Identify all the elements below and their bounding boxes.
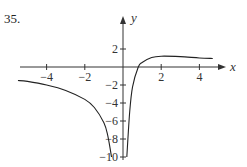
y-tick-label: −10 xyxy=(99,150,118,164)
y-ticks: 2−2−4−6−8−10 xyxy=(99,42,126,164)
y-tick-label: 2 xyxy=(112,42,118,56)
y-axis-label: y xyxy=(129,10,137,25)
function-graph: −4−224 2−2−4−6−8−10 x y xyxy=(0,0,247,167)
x-tick-label: 4 xyxy=(196,70,202,84)
y-tick-label: −4 xyxy=(105,96,118,110)
y-axis xyxy=(120,16,126,160)
x-axis-label: x xyxy=(229,59,236,74)
x-tick-label: −2 xyxy=(78,70,91,84)
curve-left-branch xyxy=(18,81,112,158)
x-tick-label: −4 xyxy=(40,70,53,84)
y-axis-arrow-icon xyxy=(120,16,126,24)
x-tick-label: 2 xyxy=(158,70,164,84)
x-axis-arrow-icon xyxy=(218,64,226,70)
y-tick-label: −2 xyxy=(105,78,118,92)
y-tick-label: −6 xyxy=(105,114,118,128)
